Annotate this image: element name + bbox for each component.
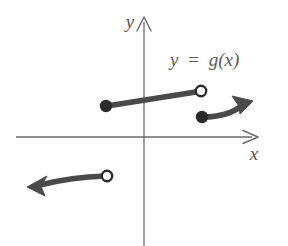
equation-rhs: g(x): [209, 49, 240, 71]
closed-dot-right-endpoint-icon: [196, 111, 208, 123]
equation-operator: =: [188, 49, 199, 70]
function-equation-label: y = g(x): [168, 49, 239, 71]
open-circle-lower-left-endpoint-icon: [102, 171, 112, 181]
y-axis-label: y: [124, 11, 135, 32]
closed-dot-left-endpoint-icon: [100, 100, 112, 112]
x-axis-label: x: [249, 143, 259, 164]
open-circle-upper-right-endpoint-icon: [196, 86, 206, 96]
equation-lhs: y: [168, 49, 179, 70]
function-graph-svg: x y y = g(x): [0, 0, 288, 246]
